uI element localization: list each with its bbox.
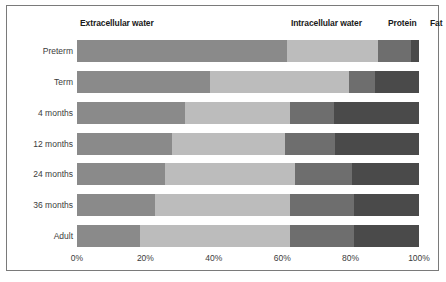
chart-figure: Extracellular water Intracellular water … (0, 0, 446, 282)
bar-segment-fat (354, 225, 419, 247)
bar-segment-protein (285, 133, 335, 155)
y-axis-label: 36 months (11, 194, 73, 216)
x-axis-tick-label: 100% (408, 253, 430, 263)
x-axis-tick-label: 80% (342, 253, 359, 263)
bar-segment-intracellular-water (155, 194, 290, 216)
bar-row (77, 102, 419, 124)
bar-segment-fat (375, 71, 419, 93)
legend-label-fat: Fat (430, 17, 442, 30)
bar-row (77, 133, 419, 155)
chart-legend: Extracellular water Intracellular water … (77, 17, 419, 33)
plot-area (77, 36, 419, 251)
x-axis-tick-label: 60% (274, 253, 291, 263)
bar-segment-protein (349, 71, 375, 93)
bar-segment-protein (290, 102, 334, 124)
bar-segment-intracellular-water (210, 71, 349, 93)
bar-segment-extracellular-water (77, 40, 287, 62)
bar-segment-fat (354, 194, 419, 216)
y-axis-label: Preterm (11, 40, 73, 62)
y-axis-label: Adult (11, 225, 73, 247)
bar-row (77, 71, 419, 93)
x-axis-tick-label: 0% (71, 253, 83, 263)
legend-label-extracellular-water: Extracellular water (80, 17, 154, 30)
y-axis: PretermTerm4 months12 months24 months36 … (7, 36, 73, 251)
y-axis-label: Term (11, 71, 73, 93)
bar-segment-extracellular-water (77, 102, 185, 124)
bar-segment-extracellular-water (77, 225, 140, 247)
x-axis-tick-label: 40% (205, 253, 222, 263)
bar-segment-protein (290, 225, 354, 247)
bar-segment-intracellular-water (140, 225, 290, 247)
legend-label-protein: Protein (388, 17, 417, 30)
bar-segment-fat (334, 102, 419, 124)
bar-segment-intracellular-water (165, 163, 295, 185)
x-axis: 0%20%40%60%80%100% (77, 253, 419, 267)
bar-segment-protein (290, 194, 354, 216)
bar-segment-extracellular-water (77, 163, 165, 185)
bar-segment-fat (352, 163, 419, 185)
bar-row (77, 194, 419, 216)
y-axis-label: 4 months (11, 102, 73, 124)
bar-row (77, 163, 419, 185)
bar-segment-fat (411, 40, 419, 62)
bar-segment-intracellular-water (185, 102, 290, 124)
bar-segment-extracellular-water (77, 133, 172, 155)
bar-row (77, 40, 419, 62)
bar-segment-intracellular-water (172, 133, 285, 155)
bar-segment-protein (295, 163, 352, 185)
bar-segment-fat (335, 133, 419, 155)
bar-row (77, 225, 419, 247)
legend-label-intracellular-water: Intracellular water (291, 17, 362, 30)
bar-segment-extracellular-water (77, 194, 155, 216)
chart-frame: Extracellular water Intracellular water … (6, 5, 439, 271)
y-axis-label: 24 months (11, 163, 73, 185)
bar-segment-extracellular-water (77, 71, 210, 93)
x-axis-tick-label: 20% (137, 253, 154, 263)
bar-segment-protein (378, 40, 411, 62)
bar-segment-intracellular-water (287, 40, 378, 62)
y-axis-label: 12 months (11, 133, 73, 155)
